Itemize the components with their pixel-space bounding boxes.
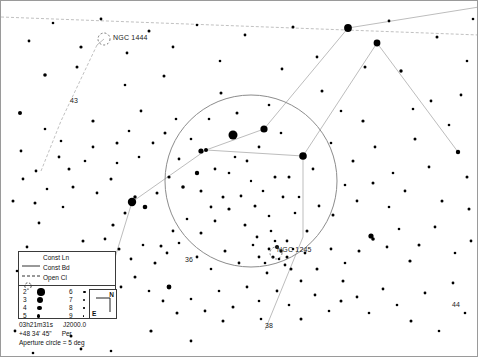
- star-marker: [456, 150, 460, 154]
- star-marker: [110, 350, 113, 353]
- star-marker: [358, 250, 361, 253]
- star-marker: [250, 180, 252, 182]
- star-marker: [210, 206, 213, 209]
- star-marker: [306, 230, 309, 233]
- star-marker: [364, 66, 367, 69]
- star-marker: [386, 246, 389, 249]
- legend-label-open-cluster: Open Cl: [43, 274, 67, 281]
- star-marker: [430, 100, 433, 103]
- star-chart: NGC 1444NGC 124543363844 Const LnConst B…: [0, 0, 478, 357]
- star-marker: [244, 34, 247, 37]
- magnitude-dot: [37, 297, 43, 303]
- star-marker: [298, 196, 301, 199]
- star-marker: [460, 94, 463, 97]
- star-marker: [464, 312, 467, 315]
- star-marker: [256, 236, 259, 239]
- star-marker: [268, 104, 271, 107]
- star-marker: [154, 262, 157, 265]
- star-marker: [412, 108, 415, 111]
- star-marker: [162, 300, 165, 303]
- star-marker: [388, 206, 391, 209]
- star-marker: [361, 119, 364, 122]
- star-marker: [28, 40, 31, 43]
- star-marker: [222, 196, 225, 199]
- compass-east-label: E: [92, 310, 96, 317]
- star-marker: [418, 244, 421, 247]
- star-marker: [252, 244, 255, 247]
- star-marker: [268, 215, 271, 218]
- star-marker: [368, 312, 371, 315]
- star-marker: [410, 320, 413, 323]
- star-marker: [372, 182, 375, 185]
- star-marker: [43, 73, 47, 77]
- star-marker: [178, 242, 181, 245]
- epoch-value: J2000.0: [63, 320, 86, 329]
- star-marker: [12, 200, 15, 203]
- compass-rose: N E: [89, 289, 117, 319]
- star-marker: [44, 128, 47, 131]
- star-marker: [382, 288, 385, 291]
- star-marker: [260, 125, 267, 132]
- star-marker: [264, 262, 267, 265]
- legend-label-const-line: Const Ln: [43, 254, 69, 261]
- star-marker: [244, 224, 247, 227]
- star-marker: [399, 69, 402, 72]
- star-marker: [344, 184, 347, 187]
- star-marker: [274, 240, 277, 243]
- star-marker: [120, 286, 123, 289]
- star-marker: [330, 248, 333, 251]
- star-marker: [281, 68, 284, 71]
- star-marker: [352, 160, 355, 163]
- star-marker: [470, 240, 473, 243]
- star-marker: [284, 264, 287, 267]
- star-marker: [149, 329, 152, 332]
- star-marker: [190, 138, 193, 141]
- star-marker: [196, 256, 199, 259]
- star-marker: [371, 237, 375, 241]
- star-marker: [156, 192, 159, 195]
- star-marker: [448, 124, 451, 127]
- magnitude-label: 7: [69, 296, 73, 303]
- star-marker: [396, 304, 399, 307]
- star-marker: [104, 238, 107, 241]
- star-marker: [282, 196, 285, 199]
- star-marker: [232, 306, 235, 309]
- star-marker: [286, 240, 289, 243]
- star-marker: [270, 230, 273, 233]
- star-marker: [316, 56, 319, 59]
- star-marker: [143, 205, 148, 210]
- star-marker: [332, 214, 335, 217]
- star-marker: [196, 24, 199, 27]
- star-marker: [82, 240, 85, 243]
- star-marker: [130, 258, 133, 261]
- star-marker: [434, 226, 437, 229]
- star-label: 38: [265, 322, 273, 329]
- magnitude-label: 2: [23, 288, 27, 295]
- star-marker: [46, 188, 49, 191]
- magnitude-dot: [37, 314, 40, 317]
- boundary-upper: [1, 17, 478, 35]
- star-marker: [314, 294, 317, 297]
- star-marker: [181, 185, 185, 189]
- star-marker: [190, 298, 193, 301]
- dso-label: NGC 1245: [277, 246, 312, 253]
- constellation-value: Per: [62, 329, 72, 338]
- star-marker: [408, 259, 411, 262]
- star-marker: [278, 258, 281, 261]
- star-marker: [167, 175, 170, 178]
- star-marker: [229, 131, 238, 140]
- star-marker: [167, 285, 172, 290]
- star-marker: [214, 168, 217, 171]
- star-marker: [60, 140, 63, 143]
- star-marker: [38, 222, 41, 225]
- star-marker: [200, 190, 203, 193]
- star-marker: [340, 300, 343, 303]
- constellation-boundaries: [1, 17, 478, 171]
- star-marker: [208, 118, 211, 121]
- legend-swatch-open-cluster: [22, 276, 40, 284]
- star-marker: [328, 310, 331, 313]
- coordinate-block: 03h21m31sJ2000.0 +48 34' 45"Per Aperture…: [19, 320, 139, 347]
- star-marker: [428, 166, 431, 169]
- star-marker: [195, 171, 199, 175]
- star-marker: [344, 24, 352, 32]
